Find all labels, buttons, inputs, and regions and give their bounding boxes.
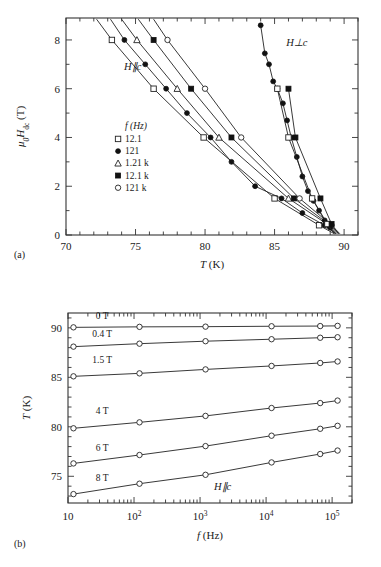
xticklabel-b: 10: [63, 510, 75, 522]
series-line: [138, 19, 338, 234]
panel-b-label: (b): [14, 538, 26, 550]
legend-label: 1.21 k: [125, 158, 149, 168]
data-point: [71, 374, 76, 379]
yticklabel-a: 6: [55, 83, 61, 95]
data-point: [137, 371, 142, 376]
legend-label: 12.1 k: [125, 171, 149, 181]
field-label: 4 T: [96, 406, 109, 416]
data-point: [269, 337, 274, 342]
data-point: [229, 159, 234, 164]
data-point: [286, 86, 291, 91]
data-point: [269, 405, 274, 410]
data-point: [269, 460, 274, 465]
series-121-hz-h-c: [258, 23, 336, 234]
data-point: [137, 341, 142, 346]
data-point: [293, 135, 298, 140]
data-point: [203, 339, 208, 344]
data-point: [203, 324, 208, 329]
data-point: [335, 398, 340, 403]
figure-root: 707580859002468T (K)μ0Hdc (T)H∥cH⊥cf (Hz…: [0, 0, 381, 567]
data-point: [137, 420, 142, 425]
xticklabel-a: 85: [269, 240, 281, 252]
panel-b: 1010210310410575808590f (Hz)T (K)0 T0.4 …: [0, 285, 381, 567]
legend-title-a: f (Hz): [125, 121, 147, 132]
xticklabel-a: 80: [200, 240, 212, 252]
legend-marker: [115, 160, 121, 166]
yticklabel-b: 80: [51, 421, 63, 433]
yticklabel-b: 85: [51, 371, 63, 383]
data-point: [318, 400, 323, 405]
data-point: [318, 451, 323, 456]
series-12-1-khz-h-c: [138, 19, 338, 234]
data-point: [201, 135, 206, 140]
data-point: [279, 196, 284, 201]
data-point: [292, 196, 297, 201]
data-point: [71, 461, 76, 466]
legend-marker: [115, 136, 120, 141]
data-point: [262, 51, 267, 56]
series-line: [288, 89, 338, 234]
data-point: [165, 37, 170, 42]
data-point: [335, 359, 340, 364]
data-point: [164, 86, 169, 91]
data-point: [300, 211, 305, 216]
data-point: [203, 443, 208, 448]
series-4-t: [71, 398, 341, 431]
series-line: [261, 25, 336, 233]
data-point: [318, 196, 323, 201]
yaxis-label-b: T (K): [20, 396, 33, 420]
data-point: [309, 196, 314, 201]
data-point: [318, 335, 323, 340]
data-point: [71, 426, 76, 431]
data-point: [335, 448, 340, 453]
data-point: [71, 325, 76, 330]
data-point: [122, 37, 127, 42]
panel-b-plot: 1010210310410575808590f (Hz)T (K)0 T0.4 …: [0, 285, 381, 567]
legend-label: 12.1: [125, 134, 142, 144]
series-8-t: [71, 448, 341, 497]
field-label: 0 T: [96, 311, 109, 321]
yticklabel-a: 0: [55, 229, 61, 241]
xticklabel-b: 104: [259, 509, 274, 523]
field-label: 1.5 T: [92, 355, 112, 365]
data-point: [202, 86, 207, 91]
data-point: [329, 222, 334, 227]
data-point: [269, 433, 274, 438]
data-point: [269, 324, 274, 329]
data-point: [208, 135, 213, 140]
panel-a-plot: 707580859002468T (K)μ0Hdc (T)H∥cH⊥cf (Hz…: [0, 0, 381, 285]
xticklabel-b: 103: [193, 509, 208, 523]
field-label: 6 T: [96, 443, 109, 453]
legend-marker: [116, 173, 121, 178]
data-point: [335, 335, 340, 340]
xticklabel-b: 105: [325, 509, 340, 523]
data-point: [143, 62, 148, 67]
panel-a-label: (a): [14, 249, 25, 261]
yticklabel-a: 2: [55, 180, 61, 192]
data-point: [151, 37, 156, 42]
legend-label: 121: [125, 146, 140, 156]
field-label: 8 T: [96, 473, 109, 483]
h-perp-c-label: H⊥c: [285, 37, 308, 48]
data-point: [203, 367, 208, 372]
data-point: [239, 135, 244, 140]
data-point: [185, 111, 190, 116]
yaxis-label-a: μ0Hdc (T): [14, 106, 31, 148]
data-point: [229, 135, 234, 140]
h-parallel-c-label-b: H∥c: [213, 481, 232, 493]
field-label: 0.4 T: [92, 329, 112, 339]
yticklabel-a: 8: [55, 34, 61, 46]
data-point: [151, 86, 156, 91]
data-point: [137, 452, 142, 457]
data-point: [267, 62, 272, 67]
data-point: [71, 491, 76, 496]
data-point: [335, 423, 340, 428]
data-point: [269, 363, 274, 368]
data-point: [109, 37, 114, 42]
series-line: [122, 19, 338, 234]
data-point: [335, 323, 340, 328]
data-point: [203, 472, 208, 477]
legend-label: 121 k: [125, 183, 147, 193]
data-point: [203, 413, 208, 418]
data-point: [286, 135, 291, 140]
